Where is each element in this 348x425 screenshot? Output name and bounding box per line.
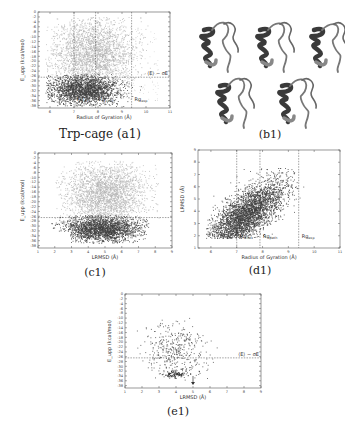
y-tick-label: 0 (121, 292, 124, 296)
y-tick-label: -30 (117, 365, 124, 369)
y-tick-label: -2 (32, 156, 36, 160)
y-tick-label: 2 (194, 234, 196, 238)
y-tick-label: -28 (30, 219, 37, 223)
y-tick-label: -14 (117, 326, 124, 330)
x-tick-label: 6 (121, 250, 124, 254)
y-tick-label: -28 (30, 79, 37, 83)
y-tick-label: -8 (119, 311, 123, 315)
threshold-label: ⟨E⟩ − σE (147, 70, 168, 76)
x-tick-label: 10 (312, 250, 317, 254)
y-tick-label: -14 (30, 45, 37, 49)
y-tick-label: 9 (194, 148, 197, 152)
y-tick-label: -2 (119, 297, 123, 301)
y-tick-label: -36 (30, 239, 37, 243)
data-points (45, 17, 158, 107)
x-tick-label: 1 (37, 250, 39, 254)
data-points (137, 318, 218, 381)
y-tick-label: -20 (30, 59, 37, 63)
y-tick-label: -24 (30, 210, 37, 214)
chart-c1: 1234567890-2-4-6-8-10-12-14-16-18-20-22-… (6, 148, 176, 266)
axis-frame: 1234567890-2-4-6-8-10-12-14-16-18-20-22-… (19, 151, 174, 260)
x-tick-label: 4 (87, 250, 90, 254)
x-tick-label: 7 (137, 250, 139, 254)
caption-d1: (d1) (240, 264, 280, 277)
y-tick-label: -26 (30, 74, 37, 78)
arrow-icon (191, 376, 195, 385)
y-tick-label: -16 (30, 190, 37, 194)
y-tick-label: -6 (32, 166, 36, 170)
rg-line-label: Rgexp (302, 233, 315, 240)
x-tick-label: 6 (209, 390, 212, 394)
y-tick-label: -10 (30, 35, 37, 39)
y-tick-label: 0 (34, 10, 37, 14)
y-tick-label: 8 (194, 160, 197, 164)
y-tick-label: -10 (30, 176, 37, 180)
data-points (206, 168, 304, 239)
y-tick-label: 3 (194, 222, 196, 226)
protein-ribbons (180, 10, 345, 135)
x-tick-label: 7 (236, 250, 238, 254)
caption-b1: (b1) (240, 128, 300, 141)
y-tick-label: -24 (30, 69, 37, 73)
y-tick-label: -24 (117, 350, 124, 354)
y-tick-label: -32 (117, 369, 123, 373)
y-tick-label: -36 (117, 379, 124, 383)
y-tick-label: -20 (30, 200, 37, 204)
rg-line-label: Rgpath (99, 96, 113, 103)
x-tick-label: 2 (141, 390, 143, 394)
y-tick-label: -8 (32, 30, 36, 34)
y-tick-label: -18 (30, 55, 37, 59)
caption-c1: (c1) (75, 266, 115, 279)
y-tick-label: -14 (30, 185, 37, 189)
rg-line-label: Rgexp (135, 96, 148, 103)
caption-e1: (e1) (158, 405, 198, 418)
y-tick-label: -30 (30, 224, 37, 228)
y-tick-label: -26 (30, 215, 37, 219)
y-tick-label: 4 (194, 209, 197, 213)
x-tick-label: 9 (260, 390, 263, 394)
y-axis-label: LRMSD (Å) (179, 186, 185, 213)
y-tick-label: -6 (119, 307, 123, 311)
y-tick-label: -38 (30, 244, 37, 248)
protein-structure (311, 23, 345, 72)
x-tick-label: 8 (154, 250, 157, 254)
chart-d1: 67891011123456789Radius of Gyration (Å)L… (178, 144, 346, 264)
scatter-plot-e1: 1234567890-2-4-6-8-10-12-14-16-18-20-22-… (95, 290, 267, 405)
y-tick-label: -10 (117, 316, 124, 320)
x-tick-label: 3 (158, 390, 160, 394)
y-tick-label: -4 (32, 161, 36, 165)
y-tick-label: -32 (30, 89, 36, 93)
y-tick-label: 5 (194, 197, 196, 201)
y-axis-label: E_upp (kcal/mol) (19, 39, 26, 81)
x-tick-label: 7 (73, 110, 75, 114)
y-axis-label: E_upp (kcal/mol) (106, 320, 113, 362)
y-tick-label: -12 (30, 180, 36, 184)
x-tick-label: 4 (175, 390, 178, 394)
caption-a1: Trp-cage (a1) (40, 127, 160, 141)
y-tick-label: -34 (30, 94, 37, 98)
x-axis-label: Radius of Gyration (Å) (76, 114, 131, 121)
scatter-plot-d1: 67891011123456789Radius of Gyration (Å)L… (178, 144, 346, 264)
x-tick-label: 11 (168, 110, 173, 114)
x-tick-label: 8 (243, 390, 246, 394)
rg-line-label: Rgpath (263, 233, 277, 240)
x-tick-label: 2 (54, 250, 56, 254)
y-tick-label: -4 (119, 302, 123, 306)
y-tick-label: -22 (30, 64, 36, 68)
y-tick-label: -38 (30, 104, 37, 108)
y-tick-label: -4 (32, 20, 36, 24)
x-tick-label: 9 (171, 250, 174, 254)
y-tick-label: -12 (30, 40, 36, 44)
y-tick-label: -36 (30, 99, 37, 103)
protein-structure (279, 79, 316, 128)
y-tick-label: -20 (117, 340, 124, 344)
x-axis-label: Radius of Gyration (Å) (241, 254, 296, 261)
axis-frame: 1234567890-2-4-6-8-10-12-14-16-18-20-22-… (106, 292, 263, 400)
y-tick-label: 6 (194, 185, 197, 189)
protein-structure (201, 23, 238, 72)
y-tick-label: -16 (30, 50, 37, 54)
y-tick-label: -8 (32, 171, 36, 175)
scatter-plot-a1: 678910110-2-4-6-8-10-12-14-16-18-20-22-2… (6, 6, 176, 126)
y-tick-label: -34 (30, 234, 37, 238)
y-tick-label: -16 (117, 331, 124, 335)
